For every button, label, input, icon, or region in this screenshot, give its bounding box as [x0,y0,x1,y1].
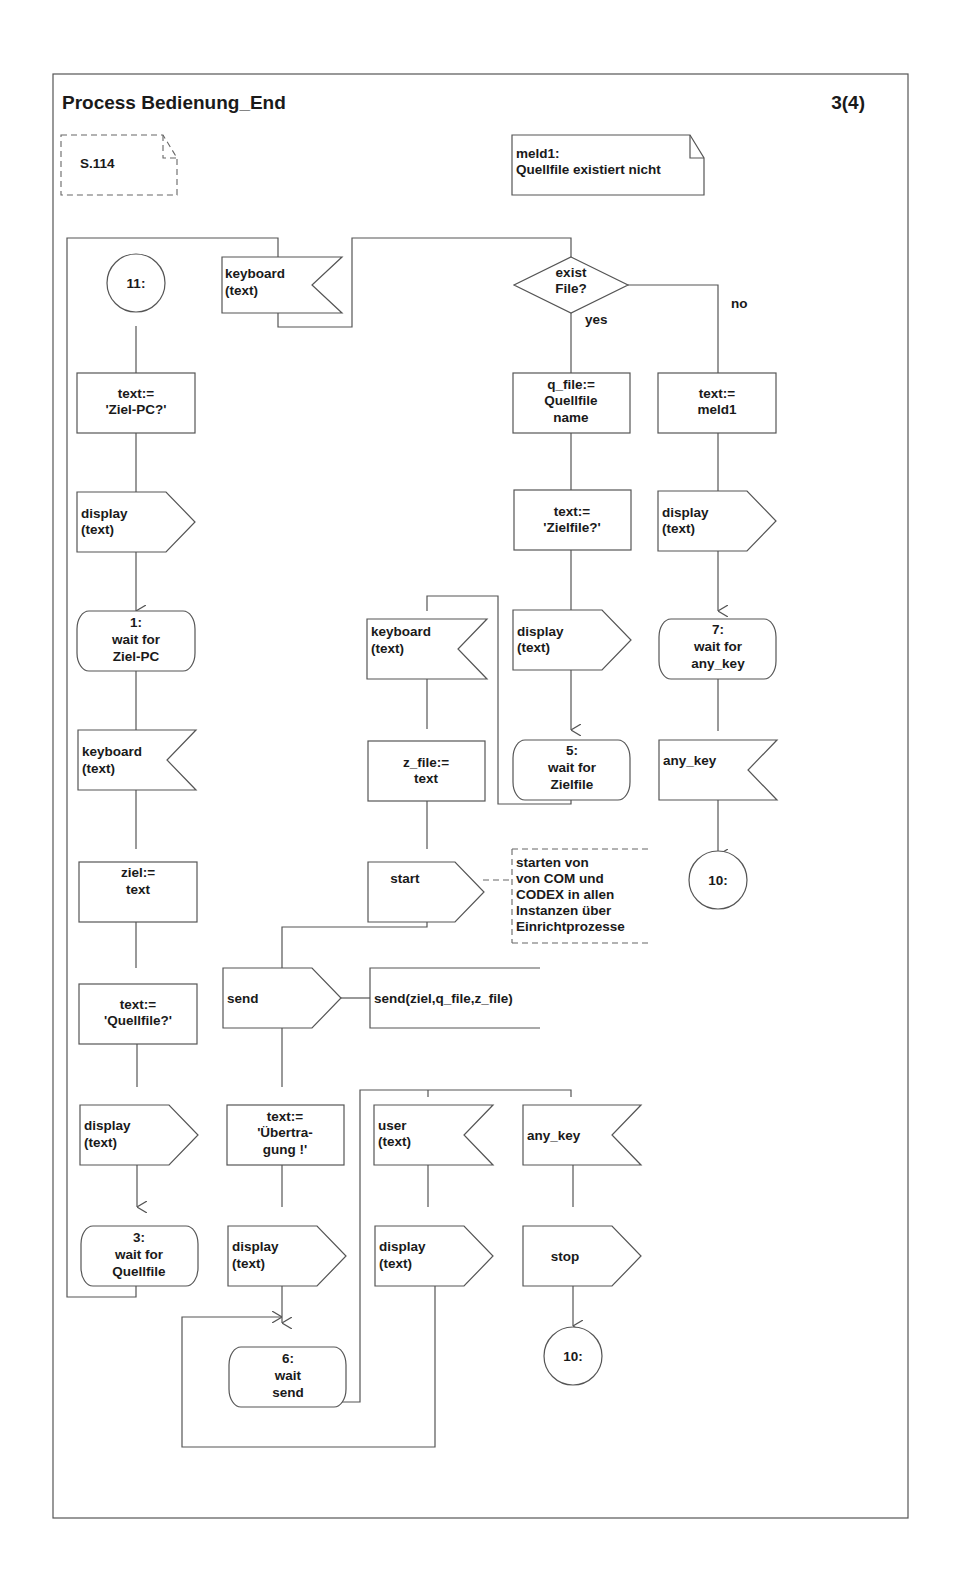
svg-text:Quellfile existiert nicht: Quellfile existiert nicht [516,162,661,177]
svg-text:z_file:=: z_file:= [403,755,449,770]
input-keyboard-1: keyboard (text) [78,730,196,790]
svg-text:display: display [379,1239,426,1254]
task-qfile-quellfile-name: q_file:= Quellfile name [513,373,630,433]
process-title: Process Bedienung_End [62,92,286,113]
svg-text:10:: 10: [563,1349,583,1364]
input-any-key-no: any_key [659,740,777,800]
svg-text:Quellfile: Quellfile [112,1264,166,1279]
svg-text:Ziel-PC: Ziel-PC [113,649,160,664]
svg-text:(text): (text) [379,1256,412,1271]
svg-text:wait for: wait for [111,632,161,647]
svg-text:display: display [662,505,709,520]
svg-text:wait: wait [274,1368,302,1383]
svg-text:S.114: S.114 [80,156,115,171]
svg-text:text:=: text:= [554,504,591,519]
svg-text:'Ziel-PC?': 'Ziel-PC?' [105,402,166,417]
svg-text:stop: stop [551,1249,580,1264]
state-1-wait-ziel-pc: 1: wait for Ziel-PC [77,611,195,671]
svg-text:display: display [517,624,564,639]
state-3-wait-quellfile: 3: wait for Quellfile [81,1226,198,1286]
svg-text:gung !': gung !' [263,1142,307,1157]
output-display-no: display (text) [658,491,776,551]
svg-text:(text): (text) [378,1134,411,1149]
state-7-wait-any-key: 7: wait for any_key [659,619,776,679]
svg-text:user: user [378,1118,407,1133]
svg-text:(text): (text) [232,1256,265,1271]
svg-text:keyboard: keyboard [371,624,431,639]
output-display-middle: display (text) [228,1226,346,1286]
svg-text:text:=: text:= [267,1109,304,1124]
start-comment: starten von von COM und CODEX in allen I… [512,849,652,943]
task-text-ziel-pc: text:= 'Ziel-PC?' [77,373,195,433]
svg-text:send: send [272,1385,304,1400]
input-keyboard-middle: keyboard (text) [367,619,487,679]
svg-text:(text): (text) [517,640,550,655]
task-text-uebertragung: text:= 'Übertra- gung !' [227,1105,344,1165]
svg-text:Zielfile: Zielfile [551,777,594,792]
svg-text:text:=: text:= [118,386,155,401]
state-6-wait-send: 6: wait send [229,1347,346,1407]
svg-text:CODEX in allen: CODEX in allen [516,887,614,902]
connector-11: 11: [107,254,165,312]
svg-text:1:: 1: [130,615,142,630]
svg-text:name: name [553,410,589,425]
svg-text:von COM und: von COM und [516,871,604,886]
svg-text:text: text [126,882,151,897]
svg-text:'Zielfile?': 'Zielfile?' [543,520,600,535]
svg-text:'Quellfile?': 'Quellfile?' [104,1013,172,1028]
state-5-wait-zielfile: 5: wait for Zielfile [513,740,630,800]
svg-text:start: start [390,871,420,886]
svg-text:Quellfile: Quellfile [544,393,598,408]
svg-text:7:: 7: [712,622,724,637]
svg-text:wait for: wait for [114,1247,164,1262]
input-keyboard-top: keyboard (text) [222,257,342,313]
output-start: start [368,862,484,922]
output-send: send [223,968,341,1028]
svg-text:Einrichtprozesse: Einrichtprozesse [516,919,625,934]
input-any-key-bottom: any_key [523,1105,641,1165]
svg-text:text:=: text:= [120,997,157,1012]
svg-text:(text): (text) [81,522,114,537]
output-display-user: display (text) [375,1226,493,1286]
output-display-yes: display (text) [513,610,631,670]
output-stop: stop [523,1226,641,1286]
svg-text:text: text [414,771,439,786]
connector-10-bottom: 10: [544,1327,602,1385]
svg-text:ziel:=: ziel:= [121,865,155,880]
svg-text:(text): (text) [82,761,115,776]
task-ziel-text: ziel:= text [79,862,197,922]
task-text-quellfile: text:= 'Quellfile?' [79,984,197,1044]
svg-text:Instanzen über: Instanzen über [516,903,612,918]
task-text-meld1: text:= meld1 [658,373,776,433]
task-zfile-text: z_file:= text [368,741,485,801]
svg-text:File?: File? [555,281,587,296]
page-number: 3(4) [831,92,865,113]
svg-text:meld1: meld1 [697,402,737,417]
svg-text:wait for: wait for [547,760,597,775]
svg-text:5:: 5: [566,743,578,758]
svg-text:keyboard: keyboard [225,266,285,281]
svg-text:text:=: text:= [699,386,736,401]
svg-text:meld1:: meld1: [516,146,560,161]
meld1-text-symbol: meld1: Quellfile existiert nicht [512,135,704,195]
svg-text:exist: exist [556,265,587,280]
svg-text:(text): (text) [371,641,404,656]
input-user-text: user (text) [374,1105,493,1165]
connector-10-no: 10: [689,851,747,909]
svg-text:'Übertra-: 'Übertra- [257,1125,313,1140]
svg-text:3:: 3: [133,1230,145,1245]
svg-text:6:: 6: [282,1351,294,1366]
svg-text:starten von: starten von [516,855,589,870]
svg-text:any_key: any_key [527,1128,581,1143]
svg-text:display: display [84,1118,131,1133]
svg-text:keyboard: keyboard [82,744,142,759]
svg-text:any_key: any_key [691,656,745,671]
task-text-zielfile: text:= 'Zielfile?' [514,490,631,550]
svg-text:10:: 10: [708,873,728,888]
svg-text:(text): (text) [84,1135,117,1150]
svg-text:(text): (text) [225,283,258,298]
svg-text:send(ziel,q_file,z_file): send(ziel,q_file,z_file) [374,991,513,1006]
svg-text:q_file:=: q_file:= [547,377,595,392]
send-comment: send(ziel,q_file,z_file) [370,968,540,1028]
decision-exist-file: exist File? [514,257,628,313]
